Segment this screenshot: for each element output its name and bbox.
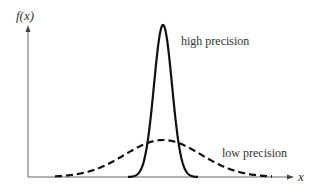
precision-diagram	[0, 0, 313, 193]
x-axis-arrow-icon	[287, 175, 294, 180]
x-axis-label: x	[298, 169, 304, 185]
y-axis-arrow-icon	[26, 25, 31, 32]
low-precision-label: low precision	[222, 146, 287, 161]
y-axis-label: f(x)	[16, 8, 34, 24]
high-precision-label: high precision	[181, 34, 249, 49]
